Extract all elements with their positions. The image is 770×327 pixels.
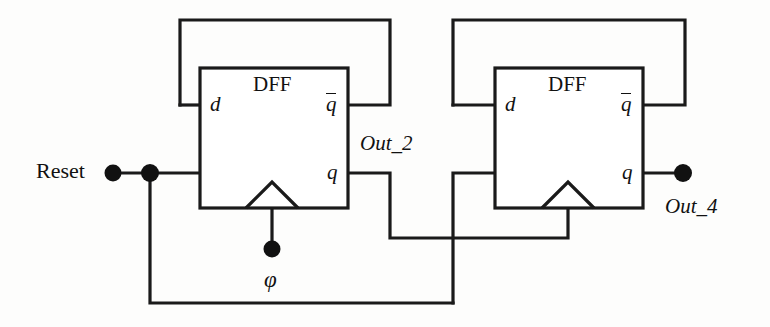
- out4-terminal-dot[interactable]: [674, 164, 692, 182]
- dff2-block-label: DFF: [548, 74, 587, 95]
- clock-phi-label: φ: [264, 268, 277, 291]
- reset-label: Reset: [36, 160, 85, 182]
- dff2-qbar-overbar: [621, 93, 631, 95]
- dff1-pin-qbar-label: q: [326, 94, 337, 115]
- dff1-qbar-overbar-group: q: [326, 94, 337, 115]
- dff2-qbar-text: q: [621, 92, 632, 116]
- dff2-qbar-overbar-group: q: [621, 94, 632, 115]
- reset-terminal-dot[interactable]: [105, 165, 122, 182]
- dff2-pin-qbar-label: q: [621, 94, 632, 115]
- dff2-pin-d-label: d: [505, 94, 516, 115]
- dff1-qbar-overbar: [326, 93, 336, 95]
- dff1-pin-d-label: d: [210, 94, 221, 115]
- clock-terminal-dot[interactable]: [264, 241, 281, 258]
- circuit-diagram-canvas: DFF d q q DFF d q q Reset Out_2 Out_4 φ: [0, 0, 770, 327]
- reset-junction-dot: [141, 164, 159, 182]
- dff1-block-label: DFF: [253, 74, 292, 95]
- out2-label: Out_2: [360, 133, 413, 154]
- schematic-svg: [0, 0, 770, 327]
- dff1-pin-q-label: q: [327, 162, 338, 183]
- dff2-pin-q-label: q: [622, 162, 633, 183]
- dff1-qbar-text: q: [326, 92, 337, 116]
- out4-label: Out_4: [665, 196, 718, 217]
